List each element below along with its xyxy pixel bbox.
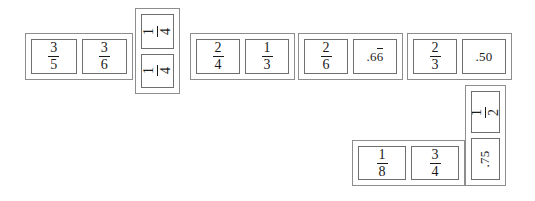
- fraction-numerator: 2: [321, 41, 332, 56]
- domino-cell-3b[interactable]: 1 3: [245, 39, 289, 74]
- domino-tile-3[interactable]: 2 4 1 3: [190, 33, 295, 80]
- fraction-3-6: 3 6: [99, 41, 110, 72]
- fraction-numerator: 2: [213, 41, 224, 56]
- fraction-numerator: 1: [142, 65, 157, 76]
- domino-cell-2a[interactable]: 1 4: [141, 14, 174, 49]
- rotated-content: 1 4: [142, 26, 173, 37]
- fraction-numerator: 1: [377, 148, 388, 163]
- domino-cell-6a[interactable]: 1 2: [471, 91, 500, 133]
- fraction-denominator: 6: [99, 56, 110, 72]
- fraction-2-4: 2 4: [213, 41, 224, 72]
- domino-cell-5b[interactable]: .50: [462, 39, 506, 74]
- fraction-3-4: 3 4: [430, 148, 441, 179]
- domino-cell-3a[interactable]: 2 4: [196, 39, 240, 74]
- domino-cell-7b[interactable]: 3 4: [411, 146, 459, 180]
- fraction-3-5: 3 5: [48, 41, 59, 72]
- fraction-numerator: 3: [99, 41, 110, 56]
- rotated-content: 1 2: [471, 107, 500, 118]
- domino-tile-7[interactable]: 1 8 3 4: [352, 140, 465, 186]
- fraction-numerator: 2: [430, 41, 441, 56]
- fraction-denominator: 5: [48, 56, 59, 72]
- domino-cell-4b[interactable]: .66: [353, 39, 397, 74]
- fraction-denominator: 4: [430, 163, 441, 179]
- fraction-1-2: 1 2: [471, 107, 500, 118]
- fraction-denominator: 6: [321, 56, 332, 72]
- domino-tile-2[interactable]: 1 4 1 4: [135, 8, 180, 94]
- domino-tile-1[interactable]: 3 5 3 6: [25, 33, 133, 80]
- domino-cell-5a[interactable]: 2 3: [413, 39, 457, 74]
- domino-cell-1b[interactable]: 3 6: [82, 39, 128, 74]
- decimal-50: .50: [476, 49, 493, 65]
- fraction-denominator: 2: [485, 107, 500, 118]
- fraction-numerator: 1: [262, 41, 273, 56]
- domino-cell-7a[interactable]: 1 8: [358, 146, 406, 180]
- fraction-denominator: 4: [213, 56, 224, 72]
- decimal-75: .75: [477, 151, 493, 168]
- fraction-denominator: 3: [430, 56, 441, 72]
- domino-tile-4[interactable]: 2 6 .66: [298, 33, 403, 80]
- domino-cell-4a[interactable]: 2 6: [304, 39, 348, 74]
- domino-cell-1a[interactable]: 3 5: [31, 39, 77, 74]
- decimal-repeating-digit: 6: [377, 48, 384, 64]
- domino-tile-5[interactable]: 2 3 .50: [407, 33, 512, 80]
- fraction-1-3: 1 3: [262, 41, 273, 72]
- fraction-numerator: 1: [142, 26, 157, 37]
- fraction-1-8: 1 8: [377, 148, 388, 179]
- decimal-repeating-66: .66: [367, 49, 384, 65]
- fraction-numerator: 3: [430, 148, 441, 163]
- decimal-prefix: .6: [367, 49, 377, 64]
- domino-cell-2b[interactable]: 1 4: [141, 54, 174, 89]
- rotated-content: .75: [477, 151, 493, 168]
- fraction-denominator: 4: [157, 65, 173, 76]
- fraction-numerator: 1: [471, 107, 485, 118]
- domino-cell-6b[interactable]: .75: [471, 138, 500, 180]
- rotated-content: 1 4: [142, 65, 173, 76]
- fraction-denominator: 3: [262, 56, 273, 72]
- fraction-2-3: 2 3: [430, 41, 441, 72]
- fraction-denominator: 4: [157, 26, 173, 37]
- fraction-1-4: 1 4: [142, 26, 173, 37]
- fraction-2-6: 2 6: [321, 41, 332, 72]
- fraction-denominator: 8: [377, 163, 388, 179]
- domino-tile-6[interactable]: 1 2 .75: [465, 85, 506, 186]
- fraction-numerator: 3: [48, 41, 59, 56]
- fraction-1-4: 1 4: [142, 65, 173, 76]
- domino-chain-canvas: 3 5 3 6 2 4 1 3 2: [0, 0, 535, 201]
